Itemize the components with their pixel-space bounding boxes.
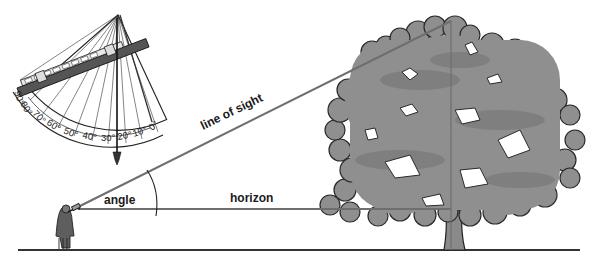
angle-label: angle bbox=[104, 193, 136, 207]
horizon-label: horizon bbox=[230, 191, 273, 205]
plumb-bob bbox=[113, 152, 121, 165]
scale-label-60: 60° bbox=[45, 117, 63, 134]
line-of-sight-label: line of sight bbox=[198, 91, 265, 133]
tree-height-diagram: angle horizon line of sight bbox=[0, 0, 607, 267]
observer-person bbox=[56, 203, 80, 249]
tree-canopy bbox=[320, 16, 585, 226]
tree-illustration bbox=[320, 16, 585, 250]
scale-label-30: 30° bbox=[101, 132, 116, 143]
clinometer-inset: 90° 80° 70° 60° 50° 40° 30° 20° 10° 0° bbox=[12, 12, 167, 165]
scale-label-20: 20° bbox=[116, 129, 132, 142]
scale-label-40: 40° bbox=[82, 129, 99, 143]
